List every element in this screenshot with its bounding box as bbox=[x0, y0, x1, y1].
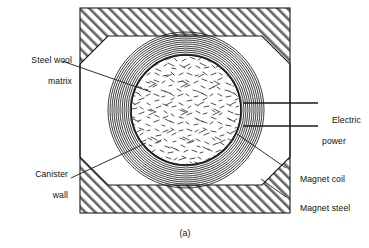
label-magnet-steel-line1: Magnet steel bbox=[300, 203, 350, 213]
figure-magnetic-separator: Steel wool matrix Canister wall Electric… bbox=[0, 0, 369, 248]
label-magnet-steel: Magnet steel bbox=[290, 192, 369, 224]
label-steel-wool-matrix-line2: matrix bbox=[0, 76, 72, 87]
label-canister-wall: Canister wall bbox=[0, 158, 68, 222]
label-electric-power: Electric power bbox=[322, 104, 369, 168]
label-electric-power-line2: power bbox=[322, 136, 369, 147]
label-magnet-coil: Magnet coil bbox=[290, 163, 369, 195]
label-electric-power-line1: Electric bbox=[332, 115, 361, 125]
label-steel-wool-matrix-line1: Steel wool bbox=[31, 55, 72, 65]
label-magnet-coil-line1: Magnet coil bbox=[300, 174, 345, 184]
label-canister-wall-line2: wall bbox=[0, 190, 68, 201]
figure-caption: (a) bbox=[155, 228, 215, 238]
label-canister-wall-line1: Canister bbox=[35, 169, 68, 179]
label-steel-wool-matrix: Steel wool matrix bbox=[0, 44, 72, 108]
